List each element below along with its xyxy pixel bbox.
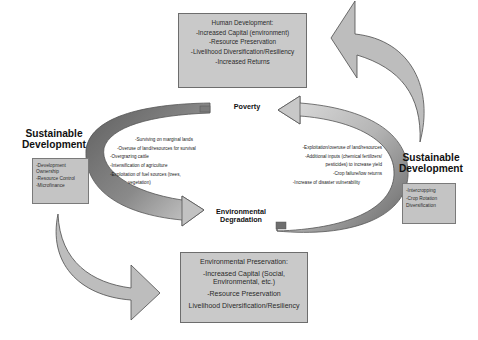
environmental-preservation-item: -Resource Preservation xyxy=(181,290,307,297)
right-sustainable-development-title: Sustainable Development xyxy=(383,152,478,175)
left-strategies-box: -Development Ownership -Resource Control… xyxy=(32,158,89,204)
right-strategy-item: -Crop Rotation xyxy=(406,196,452,201)
human-development-item: -Livelihood Diversification/Resiliency xyxy=(179,49,306,55)
poverty-cause-item: vegetation) xyxy=(108,181,218,186)
environmental-preservation-item: Livelihood Diversification/Resiliency xyxy=(181,302,307,309)
poverty-cause-item: -Overuse of land/resources for survival xyxy=(108,147,218,152)
environmental-preservation-item: -Increased Capital (Social, xyxy=(181,270,307,277)
human-development-box: Human Development: -Increased Capital (e… xyxy=(178,13,307,88)
environmental-preservation-item: Environmental, etc.) xyxy=(181,278,307,285)
poverty-causes-list: -Surviving on marginal lands -Overuse of… xyxy=(108,138,218,190)
left-title-line1: Sustainable xyxy=(25,128,82,139)
left-sustainable-development-title: Sustainable Development xyxy=(6,128,102,151)
right-strategies-box: -Intercropping -Crop Rotation Diversific… xyxy=(402,183,456,224)
left-strategy-item: -Microfinance xyxy=(36,183,85,188)
poverty-connector-bar xyxy=(200,106,210,112)
human-development-heading: Human Development: xyxy=(179,20,306,26)
left-strategy-item: -Development xyxy=(36,163,85,168)
degradation-cause-item: -Crop failure/low returns xyxy=(262,172,382,177)
environmental-preservation-heading: Environmental Preservation: xyxy=(181,258,307,265)
degradation-cause-item: -Increase of disaster vulnerability xyxy=(262,181,382,186)
degradation-cause-item: pesticides) to increase yield xyxy=(262,163,382,168)
environmental-preservation-box: Environmental Preservation: -Increased C… xyxy=(180,252,308,323)
right-strategy-item: Diversification xyxy=(406,203,452,208)
right-title-line1: Sustainable xyxy=(402,152,459,163)
poverty-cause-item: -Exploitation of fuel sources (trees, xyxy=(108,173,218,178)
poverty-cause-item: -Surviving on marginal lands xyxy=(108,138,218,143)
degradation-cause-item: -Exploitation/overuse of land/resources xyxy=(262,146,382,151)
degradation-causes-list: -Exploitation/overuse of land/resources … xyxy=(262,146,382,189)
human-development-item: -Increased Capital (environment) xyxy=(179,30,306,36)
right-title-line2: Development xyxy=(399,163,463,174)
left-strategy-item: -Resource Control xyxy=(36,176,85,181)
environmental-degradation-node: Environmental Degradation xyxy=(206,208,276,224)
human-development-item: -Increased Returns xyxy=(179,59,306,65)
right-strategy-item: -Intercropping xyxy=(406,188,452,193)
human-development-item: -Resource Preservation xyxy=(179,39,306,45)
poverty-node: Poverty xyxy=(222,103,272,111)
degradation-cause-item: -Additional inputs (chemical fertilizers… xyxy=(262,155,382,160)
left-strategy-item: Ownership xyxy=(36,169,85,174)
arrow-left-to-environmental-preservation xyxy=(56,214,160,320)
poverty-cause-item: -Overgrazing cattle xyxy=(108,155,218,160)
degradation-connector-bar xyxy=(276,222,286,229)
poverty-cause-item: -Intensification of agriculture xyxy=(108,164,218,169)
left-title-line2: Development xyxy=(22,139,86,150)
env-degradation-line2: Degradation xyxy=(220,215,262,224)
